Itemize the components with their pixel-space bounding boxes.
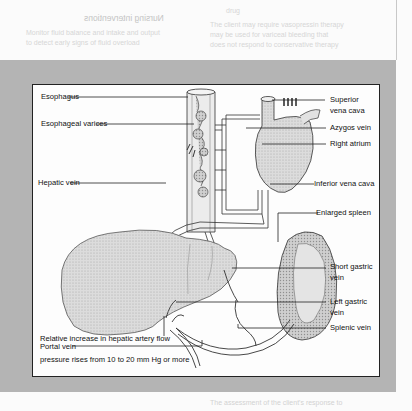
label-left-gastric-vein-line2: vein [330, 308, 344, 317]
label-short-gastric-vein-line2: vein [330, 273, 344, 282]
label-superior-vena-cava-line2: vena cava [330, 106, 365, 115]
label-azygos-vein: Azygos vein [330, 123, 371, 132]
label-hepatic-vein: Hepatic vein [38, 178, 80, 187]
liver-icon [61, 230, 237, 335]
azygos-vein-icon [215, 115, 262, 214]
label-superior-vena-cava-line1: Superior [330, 95, 359, 104]
label-short-gastric-vein-line1: Short gastric [330, 262, 373, 271]
label-esophageal-varices: Esophageal varices [41, 119, 107, 128]
below-text-line: The assessment of the client's response … [210, 398, 342, 407]
heart-icon [255, 97, 320, 193]
label-right-atrium: Right atrium [330, 139, 371, 148]
label-inferior-vena-cava: Inferior vena cava [314, 179, 374, 188]
label-portal-vein: Portal vein [40, 342, 76, 351]
label-esophagus: Esophagus [41, 92, 79, 101]
label-left-gastric-vein-line1: Left gastric [330, 297, 367, 306]
enlarged-spleen-icon [277, 232, 337, 340]
label-enlarged-spleen: Enlarged spleen [316, 208, 371, 217]
label-splenic-vein: Splenic vein [330, 323, 371, 332]
label-portal-pressure: pressure rises from 10 to 20 mm Hg or mo… [40, 355, 189, 364]
